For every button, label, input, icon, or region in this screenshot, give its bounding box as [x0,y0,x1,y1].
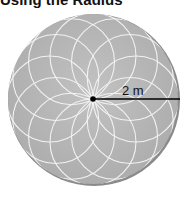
circle-diagram [0,0,189,198]
radius-label: 2 m [122,83,144,98]
center-dot [90,96,96,102]
